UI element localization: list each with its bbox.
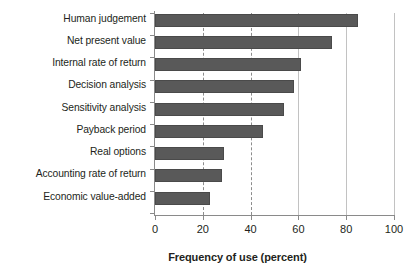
x-tick-20: [203, 215, 204, 220]
category-label-accounting-rate-of-return: Accounting rate of return: [0, 168, 146, 180]
bar-decision-analysis: [155, 80, 294, 93]
x-tick-0: [155, 215, 156, 220]
x-tick-60: [298, 215, 299, 220]
category-label-internal-rate-of-return: Internal rate of return: [0, 57, 146, 69]
plot-area: [155, 13, 394, 215]
x-tick-label-40: 40: [231, 223, 271, 235]
bar-internal-rate-of-return: [155, 58, 301, 71]
bar-sensitivity-analysis: [155, 103, 284, 116]
bar-accounting-rate-of-return: [155, 169, 222, 182]
bar-human-judgement: [155, 14, 358, 27]
bar-payback-period: [155, 125, 263, 138]
x-axis-title: Frequency of use (percent): [0, 251, 411, 263]
x-tick-80: [346, 215, 347, 220]
y-tick-3: [150, 80, 154, 81]
y-tick-9: [150, 213, 154, 214]
y-tick-5: [150, 124, 154, 125]
x-tick-label-0: 0: [135, 223, 175, 235]
y-tick-4: [150, 102, 154, 103]
x-tick-40: [251, 215, 252, 220]
category-label-sensitivity-analysis: Sensitivity analysis: [0, 102, 146, 114]
category-label-decision-analysis: Decision analysis: [0, 79, 146, 91]
x-axis-line: [154, 215, 395, 216]
bar-economic-value-added: [155, 192, 210, 205]
y-axis-line: [154, 11, 155, 215]
x-tick-label-100: 100: [374, 223, 411, 235]
y-tick-7: [150, 169, 154, 170]
category-label-human-judgement: Human judgement: [0, 13, 146, 25]
y-tick-6: [150, 146, 154, 147]
x-tick-label-80: 80: [326, 223, 366, 235]
x-tick-label-20: 20: [183, 223, 223, 235]
bar-net-present-value: [155, 36, 332, 49]
y-tick-0: [150, 13, 154, 14]
gridline-100: [394, 13, 395, 215]
category-axis: Human judgement Net present value Intern…: [0, 13, 150, 215]
y-tick-8: [150, 191, 154, 192]
gridline-80: [346, 13, 347, 215]
x-tick-100: [394, 215, 395, 220]
y-tick-1: [150, 35, 154, 36]
category-label-economic-value-added: Economic value-added: [0, 191, 146, 203]
category-label-payback-period: Payback period: [0, 124, 146, 136]
bar-chart: Human judgement Net present value Intern…: [0, 0, 411, 278]
y-tick-2: [150, 57, 154, 58]
category-label-real-options: Real options: [0, 146, 146, 158]
bar-real-options: [155, 147, 224, 160]
x-tick-label-60: 60: [278, 223, 318, 235]
category-label-net-present-value: Net present value: [0, 35, 146, 47]
